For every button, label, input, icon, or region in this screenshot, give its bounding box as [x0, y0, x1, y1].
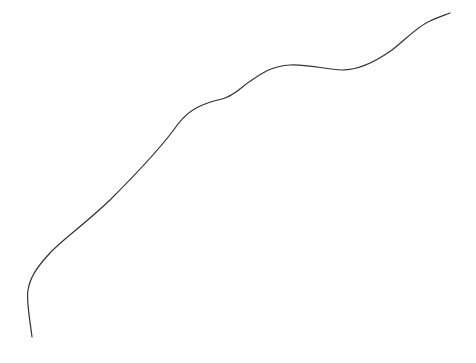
- background: [0, 0, 476, 363]
- line-drawing-canvas: [0, 0, 476, 363]
